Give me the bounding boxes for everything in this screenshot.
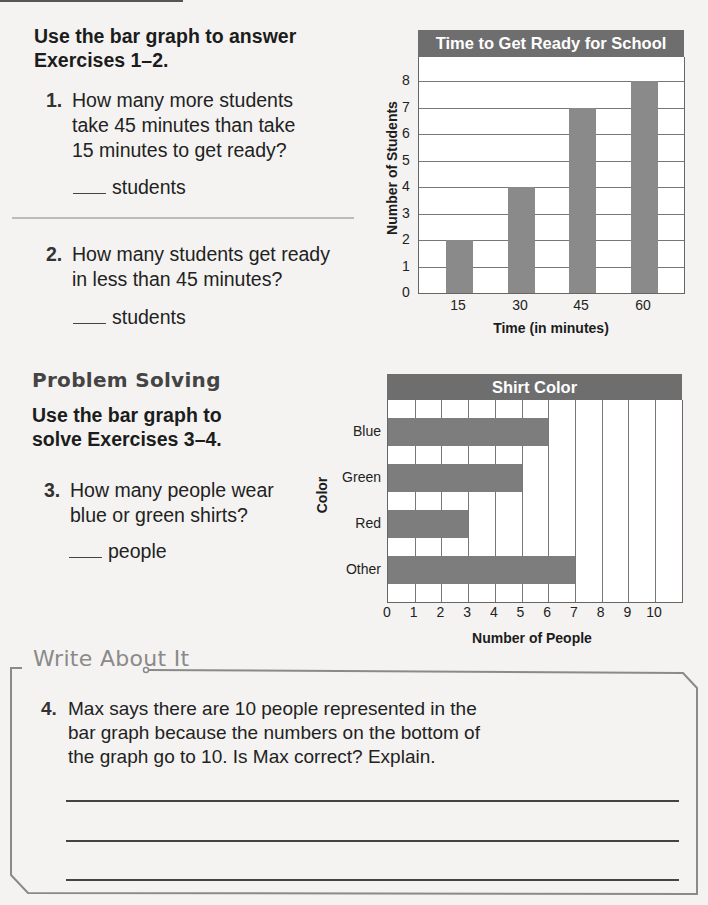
answer-1[interactable]: students	[73, 176, 186, 199]
answer-writing-line[interactable]	[66, 840, 679, 842]
chart2-y-axis-label: Color	[314, 465, 330, 525]
problem-solving-title: Problem Solving	[32, 368, 221, 392]
answer-2[interactable]: students	[73, 306, 186, 329]
question-number: 4.	[41, 697, 57, 721]
question-line: in less than 45 minutes?	[72, 267, 372, 292]
gridline	[655, 400, 656, 602]
question-number: 3.	[44, 478, 60, 503]
x-tick-label: 45	[561, 297, 601, 313]
instruction-line: solve Exercises 3–4.	[32, 427, 222, 451]
answer-unit: students	[112, 176, 186, 198]
x-tick-label: 7	[562, 604, 586, 620]
question-line: 15 minutes to get ready?	[72, 138, 362, 163]
gridline	[575, 400, 576, 602]
answer-writing-line[interactable]	[66, 800, 679, 802]
instruction-line: Use the bar graph to	[32, 403, 222, 427]
bar-30	[508, 187, 535, 293]
chart-time-to-get-ready: Time to Get Ready for School	[418, 30, 684, 57]
answer-writing-line[interactable]	[66, 879, 679, 881]
bar-other	[388, 556, 575, 584]
x-tick-label: 3	[455, 604, 479, 620]
x-tick-label: 15	[438, 297, 478, 313]
chart1-y-axis-label: Number of Students	[384, 88, 400, 248]
top-rule	[0, 0, 183, 2]
write-about-it-title: Write About It	[33, 646, 189, 671]
x-tick-label: 10	[642, 604, 666, 620]
question-line: the graph go to 10. Is Max correct? Expl…	[68, 745, 588, 769]
y-tick-label: 8	[400, 72, 412, 88]
x-tick-label: 2	[428, 604, 452, 620]
gridline	[628, 400, 629, 602]
x-tick-label: 30	[500, 297, 540, 313]
gridline	[602, 400, 603, 602]
instruction-line: Use the bar graph to answer	[34, 24, 296, 48]
x-tick-label: 0	[375, 604, 399, 620]
y-tick-label: 7	[400, 99, 412, 115]
x-tick-label: 6	[535, 604, 559, 620]
chart1-plot-area	[418, 57, 685, 294]
question-line: bar graph because the numbers on the bot…	[68, 721, 588, 745]
category-label: Green	[330, 469, 381, 485]
question-2: 2. How many students get ready in less t…	[72, 242, 372, 292]
chart-shirt-color: Shirt Color	[387, 374, 682, 400]
y-tick-label: 0	[400, 284, 412, 300]
chart-title: Shirt Color	[387, 374, 682, 400]
chart2-plot-area	[387, 400, 683, 603]
write-about-it-frame	[0, 640, 708, 905]
question-line: take 45 minutes than take	[72, 113, 362, 138]
x-tick-label: 5	[509, 604, 533, 620]
question-line: How many more students	[72, 88, 362, 113]
question-line: blue or green shirts?	[70, 503, 310, 528]
x-tick-label: 1	[402, 604, 426, 620]
x-tick-label: 9	[615, 604, 639, 620]
answer-blank[interactable]	[73, 323, 106, 324]
problem-solving-instructions: Use the bar graph to solve Exercises 3–4…	[32, 403, 222, 451]
x-tick-label: 8	[589, 604, 613, 620]
question-4: 4. Max says there are 10 people represen…	[68, 697, 588, 769]
divider	[12, 217, 354, 219]
question-number: 2.	[46, 242, 62, 267]
instruction-line: Exercises 1–2.	[34, 48, 296, 72]
question-number: 1.	[46, 88, 62, 113]
answer-unit: students	[112, 306, 186, 328]
answer-blank[interactable]	[69, 557, 102, 558]
bar-15	[446, 240, 473, 293]
question-line: Max says there are 10 people represented…	[68, 697, 588, 721]
x-tick-label: 60	[623, 297, 663, 313]
chart1-x-axis-label: Time (in minutes)	[418, 320, 684, 336]
section1-instructions: Use the bar graph to answer Exercises 1–…	[34, 24, 296, 72]
bar-45	[569, 108, 596, 294]
bar-red	[388, 510, 468, 538]
answer-blank[interactable]	[73, 193, 106, 194]
y-tick-label: 2	[400, 231, 412, 247]
y-tick-label: 5	[400, 152, 412, 168]
chart-title: Time to Get Ready for School	[418, 30, 684, 57]
question-1: 1. How many more students take 45 minute…	[72, 88, 362, 163]
category-label: Red	[330, 515, 381, 531]
bar-green	[388, 464, 522, 492]
question-3: 3. How many people wear blue or green sh…	[70, 478, 310, 528]
answer-3[interactable]: people	[69, 540, 167, 563]
y-tick-label: 4	[400, 178, 412, 194]
category-label: Other	[330, 561, 381, 577]
x-tick-label: 4	[482, 604, 506, 620]
bar-blue	[388, 418, 548, 446]
y-tick-label: 3	[400, 205, 412, 221]
question-line: How many students get ready	[72, 242, 372, 267]
category-label: Blue	[330, 423, 381, 439]
y-tick-label: 6	[400, 125, 412, 141]
answer-unit: people	[108, 540, 167, 562]
question-line: How many people wear	[70, 478, 310, 503]
bar-60	[631, 81, 658, 293]
y-tick-label: 1	[400, 258, 412, 274]
